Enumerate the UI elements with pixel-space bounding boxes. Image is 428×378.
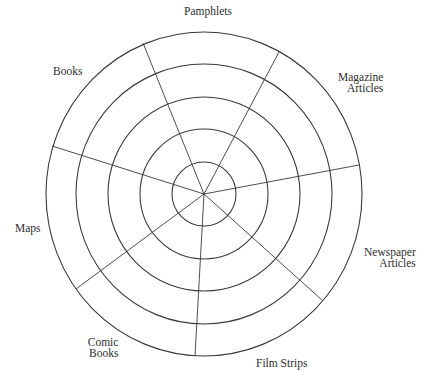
label-comic-books: Comic Books [77,337,118,359]
segment-divider-5 [195,194,204,356]
segment-divider-6 [76,194,204,289]
label-maps: Maps [15,223,41,234]
concentric-target-diagram [0,0,428,378]
label-pamphlets: Pamphlets [184,6,232,17]
segment-dividers [52,43,359,356]
label-newspaper-articles: Newspaper Articles [364,247,416,269]
label-magazine-articles: Magazine Articles [338,72,383,94]
segment-divider-7 [52,146,204,194]
segment-divider-1 [143,43,204,194]
segment-divider-4 [204,194,322,300]
label-books: Books [53,66,82,77]
segment-divider-2 [204,52,279,194]
label-film-strips: Film Strips [256,358,307,369]
segment-divider-3 [204,165,359,194]
